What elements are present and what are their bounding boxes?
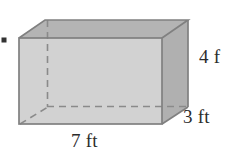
height-dimension-label: 4 f bbox=[199, 47, 220, 66]
square-bullet-icon bbox=[2, 38, 7, 43]
prism-top-face bbox=[19, 20, 188, 38]
rectangular-prism-figure: 4 f 3 ft 7 ft bbox=[0, 0, 226, 162]
width-dimension-label: 7 ft bbox=[71, 131, 98, 150]
rectangular-prism-icon bbox=[0, 0, 226, 162]
depth-dimension-label: 3 ft bbox=[183, 107, 210, 126]
